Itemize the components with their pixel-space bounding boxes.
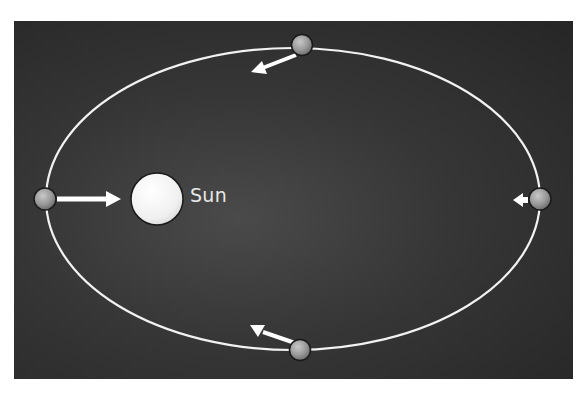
arrow-left-icon [513,193,523,207]
planet-left [34,188,121,210]
planet-top [251,35,313,75]
arrow-up-left-icon [250,325,265,337]
sun-label: Sun [190,184,227,206]
planet-right [513,188,551,210]
sun-icon [131,173,183,225]
arrow-right-icon [106,191,121,207]
planet-bottom [250,325,311,361]
orbit-diagram [0,0,580,396]
